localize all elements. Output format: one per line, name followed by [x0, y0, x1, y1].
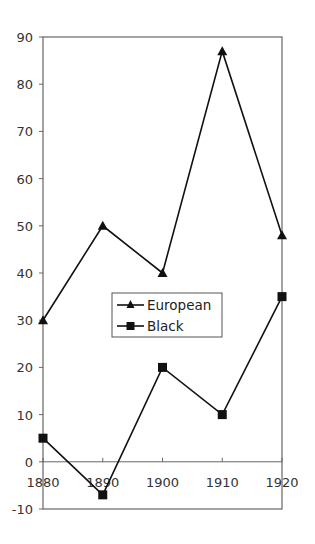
- line-chart: -100102030405060708090188018901900191019…: [0, 0, 315, 544]
- series-lines: [38, 46, 287, 499]
- y-tick-label: 40: [16, 266, 33, 281]
- triangle-marker-icon: [98, 221, 108, 230]
- y-tick-label: 70: [16, 124, 33, 139]
- x-tick-label: 1880: [26, 475, 59, 490]
- y-tick-label: 20: [16, 360, 33, 375]
- square-marker-icon: [127, 322, 135, 330]
- legend-label-black: Black: [147, 318, 184, 334]
- x-tick-label: 1890: [86, 475, 119, 490]
- square-marker-icon: [158, 363, 167, 372]
- y-tick-label: 0: [25, 455, 33, 470]
- axes: -100102030405060708090188018901900191019…: [12, 30, 299, 517]
- x-tick-label: 1910: [206, 475, 239, 490]
- legend-label-european: European: [147, 297, 211, 313]
- legend: European Black: [112, 293, 222, 337]
- y-tick-label: 10: [16, 408, 33, 423]
- y-tick-label: 50: [16, 219, 33, 234]
- square-marker-icon: [278, 292, 287, 301]
- y-tick-label: 30: [16, 313, 33, 328]
- triangle-marker-icon: [277, 230, 287, 239]
- square-marker-icon: [98, 490, 107, 499]
- series-line-european: [43, 51, 282, 320]
- x-tick-label: 1920: [265, 475, 298, 490]
- square-marker-icon: [218, 410, 227, 419]
- y-tick-label: 90: [16, 30, 33, 45]
- triangle-marker-icon: [217, 46, 227, 55]
- y-tick-label: -10: [12, 502, 33, 517]
- x-tick-label: 1900: [146, 475, 179, 490]
- y-tick-label: 60: [16, 172, 33, 187]
- square-marker-icon: [39, 434, 48, 443]
- y-tick-label: 80: [16, 77, 33, 92]
